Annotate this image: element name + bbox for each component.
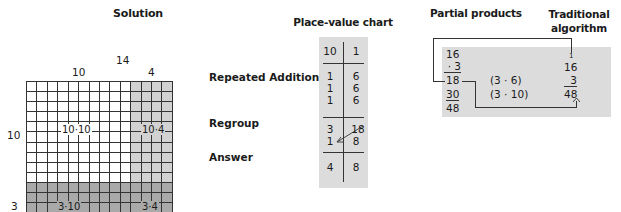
grid-cell <box>162 173 172 183</box>
grid-cell <box>69 92 79 102</box>
grid-cell <box>100 203 110 212</box>
grid-cell <box>142 183 152 193</box>
grid-cell <box>142 173 152 183</box>
grid-cell <box>110 203 120 212</box>
grid-cell <box>142 153 152 163</box>
grid-cell <box>27 143 37 153</box>
grid-cell <box>121 143 131 153</box>
grid-cell <box>90 153 100 163</box>
grid-cell <box>100 183 110 193</box>
pp-note-1: (3 · 6) <box>490 74 522 86</box>
grid-cell <box>100 82 110 92</box>
grid-cell <box>79 112 89 122</box>
grid-cell <box>27 112 37 122</box>
grid-cell <box>90 143 100 153</box>
label-regroup: Regroup <box>209 117 259 129</box>
area-top-ones: 4 <box>148 66 155 78</box>
grid-cell <box>58 102 68 112</box>
grid-cell <box>110 143 120 153</box>
grid-cell <box>110 102 120 112</box>
area-model-grid <box>26 81 173 212</box>
grid-cell <box>121 112 131 122</box>
grid-cell <box>131 183 141 193</box>
grid-cell <box>37 193 47 203</box>
grid-cell <box>100 163 110 173</box>
connector-bottom <box>475 107 577 108</box>
grid-cell <box>27 92 37 102</box>
grid-cell <box>100 92 110 102</box>
grid-cell <box>69 82 79 92</box>
grid-cell <box>131 82 141 92</box>
grid-cell <box>27 163 37 173</box>
grid-cell <box>69 153 79 163</box>
pv-answer-tens: 4 <box>322 161 338 173</box>
grid-cell <box>121 132 131 142</box>
place-value-chart: 10 1 1 6 1 6 1 6 3 18 1 8 4 8 <box>319 37 368 188</box>
area-label-10x4: 10·4 <box>141 124 165 135</box>
grid-cell <box>69 163 79 173</box>
grid-cell <box>110 163 120 173</box>
area-left-ones: 3 <box>11 200 18 212</box>
grid-cell <box>131 163 141 173</box>
grid-cell <box>58 112 68 122</box>
grid-cell <box>121 102 131 112</box>
grid-cell <box>48 112 58 122</box>
grid-cell <box>121 82 131 92</box>
grid-cell <box>48 82 58 92</box>
grid-cell <box>37 112 47 122</box>
grid-cell <box>90 92 100 102</box>
grid-cell <box>37 203 47 212</box>
pp-multiplicand: 16 <box>446 48 459 60</box>
grid-cell <box>131 153 141 163</box>
grid-cell <box>69 183 79 193</box>
grid-cell <box>110 112 120 122</box>
grid-cell <box>48 183 58 193</box>
solution-header: Solution <box>98 7 178 20</box>
grid-cell <box>162 163 172 173</box>
pp-partial-2: 30 <box>446 88 459 101</box>
grid-cell <box>79 82 89 92</box>
grid-cell <box>131 143 141 153</box>
grid-cell <box>90 173 100 183</box>
grid-cell <box>58 163 68 173</box>
grid-cell <box>79 173 89 183</box>
grid-cell <box>58 153 68 163</box>
grid-cell <box>37 122 47 132</box>
grid-cell <box>142 82 152 92</box>
grid-cell <box>58 82 68 92</box>
grid-cell <box>110 82 120 92</box>
grid-cell <box>27 102 37 112</box>
grid-cell <box>69 173 79 183</box>
connector-left-stub <box>433 81 445 82</box>
grid-cell <box>121 173 131 183</box>
traditional-algorithm-header: Traditional algorithm <box>546 7 612 35</box>
connector-right <box>571 38 572 53</box>
label-answer: Answer <box>209 151 253 163</box>
grid-cell <box>152 163 162 173</box>
pp-note-2: (3 · 10) <box>490 88 528 100</box>
pp-total: 48 <box>446 102 459 114</box>
grid-cell <box>79 92 89 102</box>
grid-cell <box>100 122 110 132</box>
grid-cell <box>90 102 100 112</box>
grid-cell <box>48 173 58 183</box>
grid-cell <box>121 193 131 203</box>
grid-cell <box>162 143 172 153</box>
grid-cell <box>142 112 152 122</box>
grid-cell <box>142 92 152 102</box>
grid-cell <box>27 203 37 212</box>
grid-cell <box>162 82 172 92</box>
grid-cell <box>152 183 162 193</box>
grid-cell <box>100 143 110 153</box>
grid-cell <box>121 153 131 163</box>
grid-cell <box>48 132 58 142</box>
grid-cell <box>37 163 47 173</box>
grid-cell <box>27 82 37 92</box>
grid-cell <box>48 102 58 112</box>
grid-cell <box>79 153 89 163</box>
connector-top <box>433 38 572 39</box>
grid-cell <box>37 82 47 92</box>
grid-cell <box>69 102 79 112</box>
grid-cell <box>121 183 131 193</box>
grid-cell <box>79 102 89 112</box>
